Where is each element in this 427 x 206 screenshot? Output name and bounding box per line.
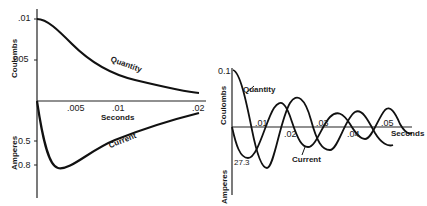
right-ytick-bottom: 27.3 — [234, 158, 250, 167]
right-xtick-2: .02 — [284, 130, 297, 139]
right-xtick-1: .01 — [255, 119, 268, 128]
left-ylabel-bottom: Amperes — [10, 136, 19, 170]
left-ytick-top-1: .01 — [18, 14, 31, 23]
right-current-label: Current — [292, 155, 321, 164]
left-ytick-bot-2: 0.8 — [18, 161, 31, 170]
left-xtick-1: .005 — [67, 104, 85, 113]
right-ylabel-top: Coulombs — [219, 86, 228, 125]
left-xtick-3: .02 — [192, 104, 205, 113]
left-ylabel-top: Coulombs — [10, 39, 19, 78]
right-xtick-4: .04 — [347, 130, 360, 139]
right-xtick-3: .03 — [316, 119, 329, 128]
right-current-curve — [232, 103, 412, 158]
left-xlabel: Seconds — [101, 113, 134, 122]
right-ytick-top: 0.1 — [218, 67, 231, 76]
right-ylabel-bottom: Amperes — [220, 170, 229, 204]
left-xtick-2: .01 — [112, 104, 125, 113]
charts-canvas — [0, 0, 427, 206]
right-quantity-label: Quantity — [243, 85, 275, 94]
right-xlabel: Seconds — [391, 129, 424, 138]
left-ytick-bot-1: 0.5 — [18, 137, 31, 146]
right-xtick-5: .05 — [381, 119, 394, 128]
